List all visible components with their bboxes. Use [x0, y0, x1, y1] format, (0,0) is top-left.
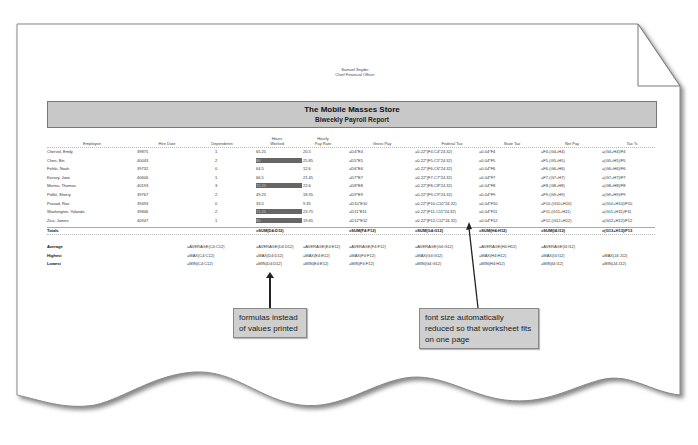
signature-block: Samuel Snyder Chief Financial Officer [325, 67, 385, 77]
hours-worked: 49.25 [256, 192, 302, 197]
summary-dependents: =AVERAGE(C4:C12) [187, 244, 225, 249]
federal-tax: =0.22*(F11-C11*24.32) [415, 209, 456, 214]
summary-row: Lowest=MIN(C4:C12)=MIN(D4:D12)=MIN(E4:E1… [47, 261, 655, 266]
employee-name: Chervel, Emily [47, 149, 73, 154]
pay-rate: 22.6 [303, 183, 311, 188]
summary-net: =MAX(I4:I12) [541, 253, 565, 258]
federal-tax: =0.22*(F9-C9*24.32) [415, 192, 452, 197]
report-title: The Mobile Masses Store [48, 104, 656, 115]
totals-net: =SUM(I4:I12) [541, 228, 565, 233]
summary-net: =MIN(I4:I12) [541, 261, 563, 266]
header-gross-pay: Gross Pay [347, 141, 417, 146]
federal-tax: =0.22*(F10-C10*24.32) [415, 201, 456, 206]
totals-state: =SUM(H4:H12) [479, 228, 507, 233]
hire-date: 39767 [137, 192, 148, 197]
summary-dependents: =MIN(C4:C12) [187, 261, 213, 266]
table-row: Felski, Noah39732064.512.6=D6*E6=0.22*(F… [47, 166, 655, 171]
state-tax: =0.04*F12 [479, 218, 498, 223]
federal-tax: =0.22*(F7-C7*24.32) [415, 175, 452, 180]
header-hours-2: Worked [257, 141, 297, 146]
gross-pay: =D6*E6 [349, 166, 363, 171]
callout-font-size: font size automatically reduced so that … [419, 308, 539, 349]
net-pay: =F4-(G4+H4) [541, 149, 565, 154]
state-tax: =0.04*F5 [479, 158, 495, 163]
hours-worked: 65.25 [256, 149, 302, 154]
totals-federal: =SUM(G4:G12) [415, 228, 443, 233]
hire-date: 39732 [137, 166, 148, 171]
summary-rate: =AVERAGE(E4:E12) [303, 244, 340, 249]
header-row-2: Employee Hire Date Dependents Worked Pay… [47, 141, 655, 146]
totals-row: Totals =SUM(D4:D12) =SUM(F4:F12) =SUM(G4… [47, 228, 655, 233]
employee-name: Chen, Bin [47, 158, 65, 163]
arrow-up-icon [266, 272, 274, 278]
pay-rate: 21.45 [303, 175, 313, 180]
hire-date: 39493 [137, 201, 148, 206]
pay-rate: 12.6 [303, 166, 311, 171]
summary-label: Average [47, 244, 63, 249]
tax-pct: =(G12+H12)/F12 [602, 218, 632, 223]
table-row: Chervel, Emily39875165.2520.5=D4*E4=0.22… [47, 149, 655, 154]
hours-worked: 66.5 [256, 175, 302, 180]
dependents: 1 [215, 175, 217, 180]
net-pay: =F7-(G7+H7) [541, 175, 565, 180]
pay-rate: 23.75 [303, 209, 313, 214]
summary-federal: =AVERAGE(G4:G12) [415, 244, 453, 249]
table-row: Menna, Thomas40193372.2522.6=D8*E8=0.22*… [47, 183, 655, 188]
hours-worked: 80 [256, 218, 302, 223]
report-subtitle: Biweekly Payroll Report [48, 115, 656, 125]
table-row: Zico, James4094718019.65=D12*E12=0.22*(F… [47, 218, 655, 223]
dependents: 0 [215, 201, 217, 206]
summary-tax-pct: =MAX(J4:J12) [602, 253, 627, 258]
summary-hours: =MAX(D4:D12) [256, 253, 283, 258]
net-pay: =F10-(G10+H10) [541, 201, 571, 206]
summary-state: =MAX(H4:H12) [479, 253, 506, 258]
pay-rate: 9.35 [303, 201, 311, 206]
employee-name: Kersey, Jane [47, 175, 70, 180]
net-pay: =F9-(G9+H9) [541, 192, 565, 197]
employee-name: Zico, James [47, 218, 69, 223]
summary-hours: =MIN(D4:D12) [256, 261, 282, 266]
summary-gross: =MAX(F4:F12) [349, 253, 375, 258]
pay-rate: 20.5 [303, 149, 311, 154]
hours-worked: 72.25 [256, 183, 302, 188]
employee-name: Prasad, Rao [47, 201, 69, 206]
net-pay: =F5-(G5+H5) [541, 158, 565, 163]
summary-state: =MIN(H4:H12) [479, 261, 505, 266]
hire-date: 39846 [137, 209, 148, 214]
dependents: 1 [215, 218, 217, 223]
state-tax: =0.04*F6 [479, 166, 495, 171]
summary-net: =AVERAGE(I4:I12) [541, 244, 575, 249]
table-row: Prasad, Rao39493033.59.35=D10*E10=0.22*(… [47, 201, 655, 206]
callout-arrow-line-formulas [269, 276, 271, 308]
tax-pct: =(G9+H9)/F9 [602, 192, 626, 197]
tax-pct: =(G6+H6)/F6 [602, 166, 626, 171]
dependents: 2 [215, 192, 217, 197]
gross-pay: =D7*E7 [349, 175, 363, 180]
federal-tax: =0.22*(F12-C12*24.32) [415, 218, 456, 223]
summary-tax-pct: =MIN(J4:J12) [602, 261, 626, 266]
net-pay: =F12-(G12+H12) [541, 218, 571, 223]
federal-tax: =0.22*(F6-C6*24.32) [415, 166, 452, 171]
hours-worked: 64.5 [256, 166, 302, 171]
gross-pay: =D5*E5 [349, 158, 363, 163]
summary-federal: =MIN(G4:G12) [415, 261, 441, 266]
state-tax: =0.04*F11 [479, 209, 497, 214]
summary-dependents: =MAX(C4:C12) [187, 253, 214, 258]
federal-tax: =0.22*(F4-C4*24.32) [415, 149, 452, 154]
hire-date: 40606 [137, 175, 148, 180]
employee-name: Washington, Yolanda [47, 209, 84, 214]
summary-hours: =AVERAGE(D4:D12) [256, 244, 294, 249]
gross-pay: =D9*E9 [349, 192, 363, 197]
hire-date: 40193 [137, 183, 148, 188]
federal-tax: =0.22*(F8-C8*24.32) [415, 183, 452, 188]
hire-date: 39875 [137, 149, 148, 154]
dependents: 0 [215, 166, 217, 171]
totals-divider-bottom [47, 234, 655, 235]
summary-label: Highest [47, 253, 62, 258]
dependents: 3 [215, 183, 217, 188]
summary-row: Average=AVERAGE(C4:C12)=AVERAGE(D4:D12)=… [47, 244, 655, 249]
state-tax: =0.04*F8 [479, 183, 495, 188]
net-pay: =F6-(G6+H6) [541, 166, 565, 171]
hire-date: 40043 [137, 158, 148, 163]
hire-date: 40947 [137, 218, 148, 223]
